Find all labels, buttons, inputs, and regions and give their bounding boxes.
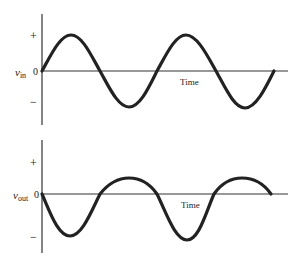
waveform-svg: + − 0 vin Time + − 0 vout Time [0, 0, 303, 265]
top-time-label: Time [180, 77, 199, 87]
top-zero-label: 0 [33, 66, 38, 77]
input-waveform-panel: + − 0 vin Time [15, 14, 288, 125]
waveform-diagram: + − 0 vin Time + − 0 vout Time [0, 0, 303, 265]
bottom-plus-label: + [30, 156, 37, 170]
vin-label: vin [15, 66, 26, 80]
top-minus-label: − [30, 95, 37, 109]
bottom-time-label: Time [181, 200, 200, 210]
output-wave [42, 178, 271, 240]
bottom-zero-label: 0 [34, 189, 39, 200]
vin-label-sub: in [20, 71, 26, 80]
top-plus-label: + [30, 29, 37, 43]
output-waveform-panel: + − 0 vout Time [13, 140, 288, 253]
vout-label-sub: out [18, 194, 29, 203]
vout-label: vout [13, 189, 29, 203]
bottom-minus-label: − [30, 230, 37, 244]
